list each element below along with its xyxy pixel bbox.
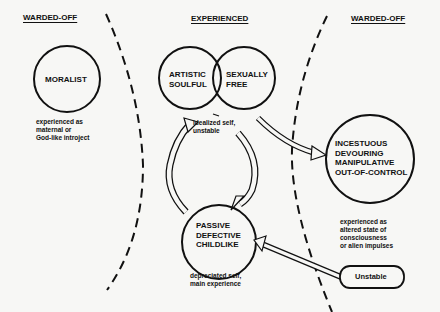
idealized-caption: idealized self, unstable: [193, 119, 235, 135]
incestuous-label: INCESTUOUS DEVOURING MANIPULATIVE OUT-OF…: [335, 139, 407, 177]
arrow-sexually-to-passive: [231, 133, 255, 210]
left-boundary-dashed: [106, 14, 143, 290]
header-experienced: EXPERIENCED: [191, 14, 248, 23]
moralist-label: MORALIST: [45, 75, 87, 85]
artistic-label: ARTISTIC SOULFUL: [169, 70, 207, 89]
unstable-label: Unstable: [355, 273, 387, 281]
incestuous-caption: experienced as altered state of consciou…: [340, 218, 393, 250]
passive-caption: depreciated self, main experience: [190, 272, 241, 288]
moralist-caption: experienced as maternal or God-like intr…: [36, 118, 89, 142]
passive-label: PASSIVE DEFECTIVE CHILDLIKE: [196, 221, 241, 250]
sexually-label: SEXUALLY FREE: [226, 70, 268, 89]
arrow-unstable-to-passive: [254, 236, 341, 277]
header-right-warded-off: WARDED-OFF: [351, 14, 405, 23]
header-left-warded-off: WARDED-OFF: [23, 13, 77, 22]
